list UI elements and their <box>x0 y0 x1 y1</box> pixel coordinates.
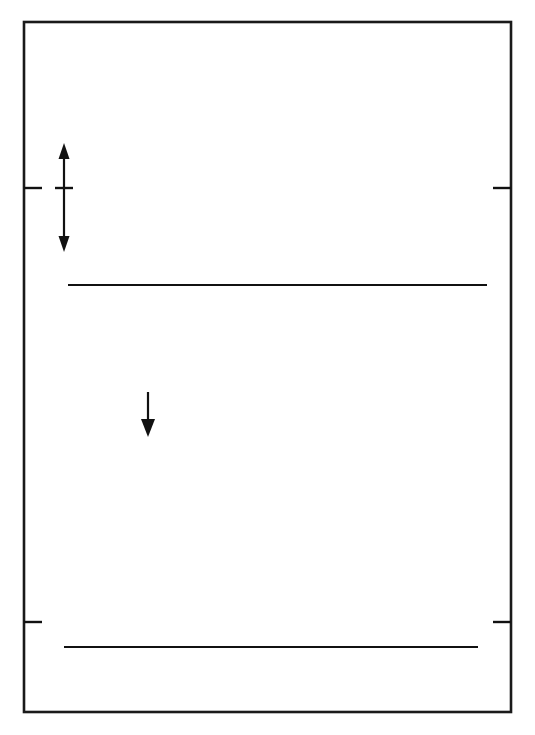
top-panel <box>24 143 511 285</box>
figure-border <box>24 22 511 712</box>
scientific-figure <box>0 0 535 735</box>
bottom-panel <box>24 392 511 647</box>
arrow-head-up-icon <box>59 143 70 159</box>
marker-arrow-head-icon <box>141 419 155 437</box>
absorption-emission-arrow <box>55 143 73 252</box>
figure-root <box>0 0 535 735</box>
arrow-head-down-icon <box>59 236 70 252</box>
frequency-marker-arrow <box>141 392 155 437</box>
